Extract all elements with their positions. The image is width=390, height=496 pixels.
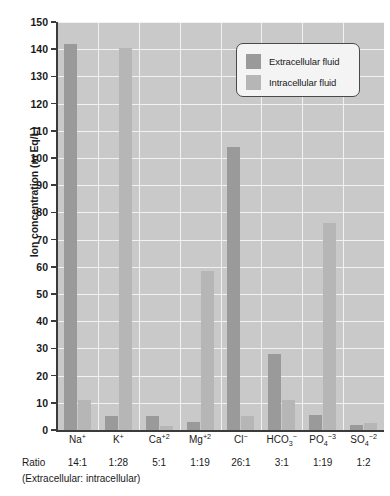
y-tick-label: 150: [12, 17, 48, 28]
gridline-vertical: [180, 22, 181, 430]
bar-Ca2-intracellular: [160, 426, 173, 430]
ratio-value-SO42: 1:2: [334, 457, 390, 468]
bar-K-intracellular: [119, 48, 132, 430]
y-tick-label: 10: [12, 398, 48, 409]
bar-HCO3-extracellular: [268, 354, 281, 430]
gridline-vertical: [139, 22, 140, 430]
bar-Mg2-intracellular: [201, 271, 214, 430]
bar-Ca2-extracellular: [146, 416, 159, 430]
ratio-row-title: Ratio: [22, 457, 45, 468]
ion-concentration-chart: Ion concentration (m Eq/L) 0102030405060…: [0, 0, 390, 496]
y-tick-label: 0: [12, 425, 48, 436]
superscript: +: [120, 432, 124, 441]
legend-item-intracellular: Intracellular fluid: [246, 72, 359, 92]
bar-SO42-intracellular: [364, 423, 377, 430]
gridline-vertical: [221, 22, 222, 430]
bar-PO43-extracellular: [309, 415, 322, 430]
chart-legend: Extracellular fluid Intracellular fluid: [236, 43, 360, 97]
legend-item-extracellular: Extracellular fluid: [246, 51, 359, 71]
legend-label-intracellular: Intracellular fluid: [269, 77, 336, 88]
bar-PO43-intracellular: [323, 223, 336, 430]
bar-Cl-extracellular: [227, 147, 240, 430]
legend-swatch-icon-intracellular: [246, 75, 261, 90]
y-tick-label: 20: [12, 371, 48, 382]
x-axis-label-SO42: SO4−2: [334, 434, 390, 445]
superscript: −2: [369, 432, 377, 441]
superscript: +2: [203, 432, 211, 441]
bar-K-extracellular: [105, 416, 118, 430]
legend-label-extracellular: Extracellular fluid: [269, 56, 339, 67]
y-tick-label: 40: [12, 316, 48, 327]
y-tick-label: 30: [12, 343, 48, 354]
superscript: +: [82, 432, 86, 441]
bar-Cl-intracellular: [241, 416, 254, 430]
y-tick-label: 140: [12, 44, 48, 55]
y-axis-title: Ion concentration (m Eq/L): [28, 72, 40, 312]
legend-swatch-icon-extracellular: [246, 54, 261, 69]
superscript: −: [244, 432, 248, 441]
bar-Na-intracellular: [78, 400, 91, 430]
bar-Mg2-extracellular: [187, 422, 200, 430]
gridline-vertical: [98, 22, 99, 430]
y-axis-line: [56, 22, 58, 431]
superscript: +2: [161, 432, 169, 441]
bar-SO42-extracellular: [350, 425, 363, 430]
bar-HCO3-intracellular: [282, 400, 295, 430]
ratio-note: (Extracellular: intracellular): [22, 473, 140, 484]
bar-Na-extracellular: [64, 44, 77, 430]
